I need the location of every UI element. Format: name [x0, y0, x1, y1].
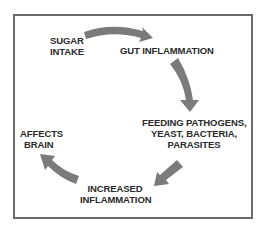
node-brain-line2: BRAIN	[20, 139, 63, 150]
node-feeding-line3: PARASITES	[142, 139, 246, 150]
node-affects-brain: AFFECTS BRAIN	[20, 128, 63, 150]
node-gut-line1: GUT INFLAMMATION	[120, 45, 214, 56]
node-feeding-line1: FEEDING PATHOGENS,	[142, 117, 246, 128]
arrow-gut-to-feeding-icon	[170, 58, 199, 112]
node-sugar-line2: INTAKE	[50, 46, 84, 57]
node-sugar-line1: SUGAR	[50, 35, 84, 46]
node-increased-line2: INFLAMMATION	[80, 194, 150, 205]
arrow-sugar-to-gut-icon	[84, 27, 153, 42]
arrow-increased-to-brain-icon	[40, 154, 79, 184]
node-brain-line1: AFFECTS	[20, 128, 63, 139]
node-gut-inflammation: GUT INFLAMMATION	[120, 45, 214, 56]
arrow-feeding-to-increased-icon	[154, 160, 183, 186]
node-feeding-pathogens: FEEDING PATHOGENS, YEAST, BACTERIA, PARA…	[142, 117, 246, 150]
node-sugar-intake: SUGAR INTAKE	[50, 35, 84, 57]
node-feeding-line2: YEAST, BACTERIA,	[142, 128, 246, 139]
node-increased-line1: INCREASED	[80, 183, 150, 194]
node-increased-inflammation: INCREASED INFLAMMATION	[80, 183, 150, 205]
